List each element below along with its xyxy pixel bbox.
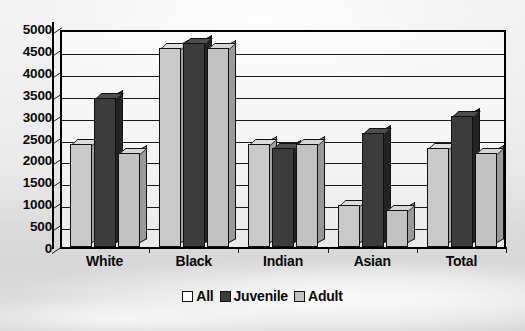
bar-juvenile-black: [183, 43, 205, 247]
bar-front-face: [296, 144, 318, 247]
bar-front-face: [207, 48, 229, 247]
bar-juvenile-indian: [272, 148, 294, 247]
bar-group: [62, 32, 151, 247]
bar-all-total: [427, 148, 449, 247]
bar-all-white: [70, 144, 92, 247]
bar-side-face: [318, 136, 325, 243]
bar-all-asian: [338, 205, 360, 247]
bar-juvenile-white: [94, 98, 116, 247]
bar-group: [151, 32, 240, 247]
legend-item-all[interactable]: All: [182, 288, 213, 304]
bar-adult-asian: [386, 210, 408, 247]
bar-adult-indian: [296, 144, 318, 247]
y-axis-line: [52, 22, 54, 249]
bar-front-face: [451, 116, 473, 247]
bar-adult-black: [207, 48, 229, 247]
x-axis-label-total: Total: [417, 253, 506, 269]
chart-legend: AllJuvenileAdult: [0, 288, 525, 304]
y-axis-tick-label: 1000: [0, 198, 52, 212]
x-axis-label-black: Black: [149, 253, 238, 269]
legend-label: Adult: [308, 288, 343, 304]
bar-juvenile-asian: [362, 133, 384, 247]
bar-front-face: [362, 133, 384, 247]
bar-front-face: [94, 98, 116, 247]
bar-front-face: [118, 153, 140, 247]
plot-area: [60, 30, 506, 249]
x-axis-tick: [506, 247, 507, 253]
bar-group: [419, 32, 508, 247]
y-axis-tick-label: 500: [0, 220, 52, 234]
bar-front-face: [427, 148, 449, 247]
bar-front-face: [338, 205, 360, 247]
legend-swatch-icon: [294, 291, 305, 302]
bar-front-face: [183, 43, 205, 247]
legend-swatch-icon: [182, 291, 193, 302]
y-axis-tick-label: 4500: [0, 45, 52, 59]
y-axis-tick-label: 1500: [0, 177, 52, 191]
y-axis-tick-label: 3000: [0, 111, 52, 125]
legend-item-adult[interactable]: Adult: [294, 288, 343, 304]
bar-front-face: [475, 153, 497, 247]
bar-adult-white: [118, 153, 140, 247]
y-axis-tick-label: 2500: [0, 133, 52, 147]
bar-all-black: [159, 48, 181, 247]
y-axis-tick-label: 4000: [0, 67, 52, 81]
bar-side-face: [140, 145, 147, 243]
legend-item-juvenile[interactable]: Juvenile: [220, 288, 288, 304]
bar-all-indian: [248, 144, 270, 247]
bar-front-face: [386, 210, 408, 247]
bar-side-face: [229, 40, 236, 243]
bar-group: [330, 32, 419, 247]
legend-label: All: [196, 288, 213, 304]
bar-front-face: [159, 48, 181, 247]
bar-juvenile-total: [451, 116, 473, 247]
chart-canvas: 5000450040003500300025002000150010005000…: [0, 0, 525, 331]
legend-label: Juvenile: [234, 288, 288, 304]
x-axis-label-indian: Indian: [238, 253, 327, 269]
y-axis-tick-label: 5000: [0, 23, 52, 37]
bar-side-face: [497, 145, 504, 243]
y-axis-tick-label: 2000: [0, 155, 52, 169]
x-axis-label-asian: Asian: [328, 253, 417, 269]
y-axis-labels: 5000450040003500300025002000150010005000: [0, 0, 52, 331]
bar-front-face: [272, 148, 294, 247]
bar-adult-total: [475, 153, 497, 247]
legend-swatch-icon: [220, 291, 231, 302]
bar-front-face: [248, 144, 270, 247]
y-axis-tick-label: 0: [0, 242, 52, 256]
x-axis-label-white: White: [60, 253, 149, 269]
bar-front-face: [70, 144, 92, 247]
bar-group: [240, 32, 329, 247]
x-axis-categories: WhiteBlackIndianAsianTotal: [60, 253, 506, 275]
y-axis-tick-label: 3500: [0, 89, 52, 103]
